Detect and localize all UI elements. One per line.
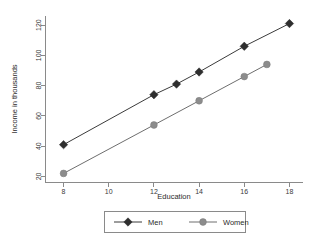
- y-tick-label: 80: [35, 82, 42, 90]
- x-tick-label: 8: [62, 188, 66, 195]
- x-axis-title: Education: [157, 192, 190, 201]
- x-tick-label: 14: [195, 188, 203, 195]
- x-tick-label: 16: [240, 188, 248, 195]
- y-tick-label: 60: [35, 112, 42, 120]
- data-point-women: [151, 122, 158, 129]
- chart-canvas: 20406080100120 81012141618 Income in tho…: [0, 0, 315, 243]
- chart-legend: MenWomen: [105, 212, 249, 233]
- data-point-women: [241, 73, 248, 80]
- y-axis-title: Income in thousands: [10, 64, 19, 133]
- data-point-women: [196, 97, 203, 104]
- y-tick-label: 120: [35, 19, 42, 31]
- chart-background: [0, 0, 315, 243]
- chart-figure: 20406080100120 81012141618 Income in tho…: [0, 0, 315, 243]
- y-tick-label: 40: [35, 142, 42, 150]
- legend-label-women: Women: [223, 218, 249, 227]
- circle-marker-icon: [200, 219, 207, 226]
- legend-label-men: Men: [148, 218, 163, 227]
- x-tick-label: 18: [286, 188, 294, 195]
- y-tick-label: 20: [35, 172, 42, 180]
- data-point-women: [263, 61, 270, 68]
- x-tick-label: 10: [105, 188, 113, 195]
- data-point-women: [60, 170, 67, 177]
- y-tick-label: 100: [35, 49, 42, 61]
